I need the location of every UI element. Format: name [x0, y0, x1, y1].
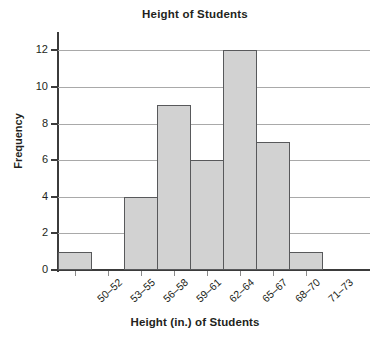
x-axis-tick	[174, 271, 175, 276]
histogram-bar	[289, 252, 323, 270]
x-axis-tick-label: 68–70	[292, 276, 322, 304]
x-axis-tick	[273, 271, 274, 276]
y-axis-tick-label: 0	[22, 264, 48, 275]
x-axis-tick-label: 56–58	[160, 276, 190, 304]
histogram-bar	[124, 197, 158, 270]
x-axis-tick-label: 71–73	[325, 276, 355, 304]
x-axis-tick	[207, 271, 208, 276]
histogram-bar	[58, 252, 92, 270]
histogram-figure: Height of Students Frequency 024681012 5…	[0, 0, 390, 338]
y-axis-title: Frequency	[12, 93, 24, 189]
x-axis-tick	[240, 271, 241, 276]
x-axis-tick	[141, 271, 142, 276]
x-axis-tick	[75, 271, 76, 276]
y-axis-tick-label: 6	[22, 154, 48, 165]
plot-area	[58, 32, 370, 270]
histogram-bar	[190, 160, 224, 270]
histogram-bar	[256, 142, 290, 270]
x-axis-tick	[306, 271, 307, 276]
chart-title: Height of Students	[0, 8, 390, 20]
histogram-bar	[223, 50, 257, 270]
x-axis-tick-label: 50–52	[94, 276, 124, 304]
gridline	[58, 87, 370, 88]
x-axis-tick-label: 62–64	[226, 276, 256, 304]
x-axis-title: Height (in.) of Students	[0, 316, 390, 328]
gridline	[58, 50, 370, 51]
y-axis-tick-label: 2	[22, 227, 48, 238]
x-axis-tick-label: 53–55	[127, 276, 157, 304]
y-axis-tick-label: 12	[22, 44, 48, 55]
x-axis-tick-label: 59–61	[193, 276, 223, 304]
histogram-bar	[157, 105, 191, 270]
x-axis-tick	[108, 271, 109, 276]
y-axis-tick-label: 8	[22, 118, 48, 129]
gridline	[58, 124, 370, 125]
y-axis-tick-label: 4	[22, 191, 48, 202]
y-axis-tick-label: 10	[22, 81, 48, 92]
x-axis-tick-label: 65–67	[259, 276, 289, 304]
